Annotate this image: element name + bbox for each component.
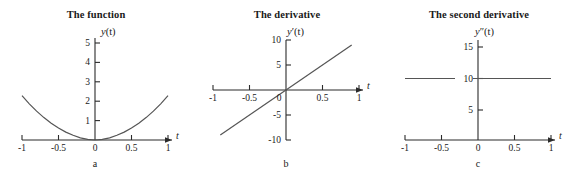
x-tick-label-b-0: -1 [209,93,217,103]
x-tick-label-b-2: 0 [277,93,282,103]
x-tick-label-c-1: -0.5 [434,143,449,153]
y-tick-label-b-3: -10 [263,135,281,145]
x-tick-label-a-4: 1 [166,143,171,153]
y-tick-label-a-4: 5 [78,38,90,48]
x-tick-label-c-4: 1 [549,143,554,153]
x-tick-label-c-0: -1 [401,143,409,153]
x-axis-label-a: t [176,130,179,141]
chart-panel-a: The function y(t) t -1 -0.5 0 [0,0,192,179]
x-tick-label-a-3: 0.5 [126,143,138,153]
plot-area-b [191,0,383,179]
y-tick-label-b-0: 10 [263,35,281,45]
x-tick-label-a-0: -1 [18,143,26,153]
chart-panel-c: The second derivative y″(t) t -1 -0.5 0 … [383,0,575,179]
y-tick-label-c-2: 5 [455,105,473,115]
x-axis-label-c: t [559,130,562,141]
y-tick-label-a-2: 3 [78,77,90,87]
x-tick-label-b-3: 0.5 [317,93,329,103]
y-tick-label-a-3: 4 [78,57,90,67]
figure-container: The function y(t) t -1 -0.5 0 [0,0,575,179]
x-tick-label-a-2: 0 [93,143,98,153]
chart-panel-b: The derivative y′(t) t -1 -0.5 0 0.5 1 [191,0,383,179]
panel-caption-b: b [189,158,383,169]
x-tick-label-b-1: -0.5 [242,93,257,103]
x-tick-label-c-3: 0.5 [509,143,521,153]
x-axis-label-b: t [367,80,370,91]
panel-caption-c: c [381,158,575,169]
y-tick-label-c-0: 15 [455,42,473,52]
y-tick-label-b-1: 5 [263,60,281,70]
panel-caption-a: a [0,158,192,169]
y-tick-label-c-1: 10 [455,74,473,84]
y-tick-label-a-0: 1 [78,116,90,126]
x-tick-label-b-4: 1 [357,93,362,103]
y-tick-label-a-1: 2 [78,96,90,106]
x-tick-label-c-2: 0 [476,143,481,153]
x-tick-label-a-1: -0.5 [51,143,66,153]
y-tick-label-b-2: -5 [263,110,281,120]
